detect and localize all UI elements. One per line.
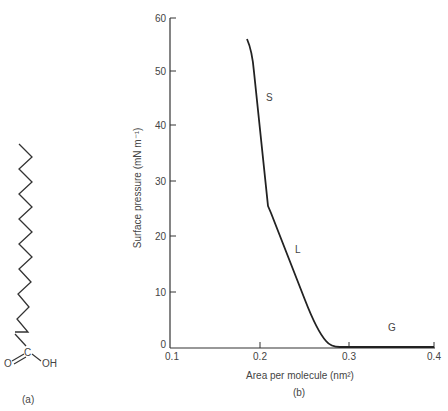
double-bond-2 [14,357,26,364]
panel-b-label: (b) [293,387,305,398]
y-ticks [170,18,176,292]
bond-to-hydroxyl [32,354,41,361]
figure: C O OH (a) 60 50 40 30 20 10 0 [0,0,448,411]
svg-text:0.2: 0.2 [253,351,267,362]
svg-text:0: 0 [160,339,166,350]
hydrocarbon-chain [15,144,32,332]
svg-text:0.1: 0.1 [165,351,179,362]
hydroxyl-label: OH [42,358,57,369]
isotherm-curve [247,39,434,347]
svg-text:0.3: 0.3 [342,351,356,362]
carbon-atom-label: C [24,347,31,358]
svg-text:50: 50 [155,66,167,77]
fatty-acid-structure: C O OH (a) [4,144,57,405]
svg-text:30: 30 [155,176,167,187]
phase-label-gas: G [388,322,396,333]
phase-label-liquid: L [295,244,301,255]
x-tick-labels: 0.1 0.2 0.3 0.4 [165,351,441,362]
double-bond-1 [12,354,24,361]
svg-text:60: 60 [155,13,167,24]
panel-a-label: (a) [22,394,34,405]
svg-text:0.4: 0.4 [427,351,441,362]
svg-text:40: 40 [155,120,167,131]
oxygen-atom-label: O [4,358,12,369]
x-axis-label: Area per molecule (nm²) [246,370,354,381]
svg-text:10: 10 [155,287,167,298]
svg-text:20: 20 [155,231,167,242]
bond-to-carbonyl [15,334,26,346]
phase-label-solid: S [266,92,273,103]
y-tick-labels: 60 50 40 30 20 10 0 [155,13,167,350]
y-axis-label: Surface pressure (mN m⁻¹) [132,128,143,249]
isotherm-chart: 60 50 40 30 20 10 0 0.1 0.2 0.3 0.4 Area… [132,13,441,398]
